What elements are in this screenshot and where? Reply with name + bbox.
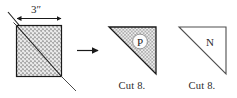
cut-note-p: Cut 8. xyxy=(106,80,158,91)
figure-canvas: 3″ P N Cut 8. Cut 8. xyxy=(0,0,237,98)
cut-line-extension-bottom xyxy=(61,76,76,91)
dimension-annotation: 3″ xyxy=(8,3,61,26)
source-square xyxy=(14,23,77,92)
triangle-p-shape xyxy=(109,27,156,74)
triangle-n-shape xyxy=(179,27,226,74)
triangle-n: N xyxy=(179,27,226,74)
triangle-n-label: N xyxy=(206,36,214,48)
cut-note-n: Cut 8. xyxy=(176,80,228,91)
triangle-p-label: P xyxy=(137,36,143,48)
triangle-p: P xyxy=(109,27,156,74)
dimension-label: 3″ xyxy=(31,3,41,15)
